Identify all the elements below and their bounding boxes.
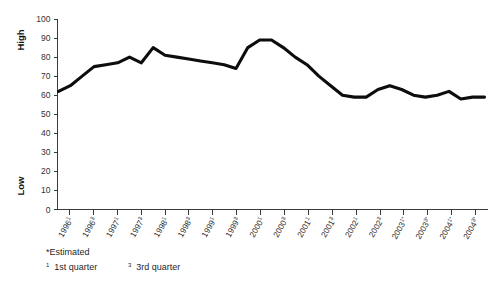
x-tick-label: 19983 — [175, 216, 194, 239]
y-tick-label: 80 — [41, 52, 51, 62]
y-tick-label: 20 — [41, 166, 51, 176]
data-line-series — [59, 40, 485, 99]
y-tick-label: 60 — [41, 90, 51, 100]
x-axis-group: 1996119963199711997319981199831999119993… — [56, 210, 488, 241]
x-tick-label: 19973 — [128, 216, 147, 239]
y-tick-label: 70 — [41, 71, 51, 81]
x-tick-label: 20031* — [389, 215, 410, 241]
x-tick-label: 19981 — [151, 216, 170, 239]
y-tick-label: 40 — [41, 128, 51, 138]
chart-container: 1009080706050403020100 High Low 19961199… — [0, 0, 504, 286]
x-tick-label: 19963 — [80, 216, 99, 239]
x-tick-label: 19971 — [104, 216, 123, 239]
x-tick-label: 20033* — [413, 215, 434, 241]
data-series-group — [59, 40, 485, 99]
footnote-estimated: *Estimated — [46, 247, 90, 257]
y-tick-label: 90 — [41, 33, 51, 43]
x-tick-marks — [69, 210, 475, 215]
y-tick-label: 0 — [46, 205, 51, 215]
y-axis-group: 1009080706050403020100 High Low — [15, 14, 58, 215]
y-tick-labels: 1009080706050403020100 — [36, 14, 50, 215]
x-tick-label: 20021 — [343, 216, 362, 239]
x-tick-label: 20041* — [437, 215, 458, 241]
x-tick-labels: 1996119963199711997319981199831999119993… — [56, 215, 482, 241]
x-tick-label: 20043* — [461, 215, 482, 241]
x-tick-label: 20003 — [271, 216, 290, 239]
y-tick-label: 30 — [41, 147, 51, 157]
y-tick-label: 50 — [41, 109, 51, 119]
footnote-q3: 33rd quarter — [128, 262, 180, 272]
x-tick-label: 19961 — [56, 216, 75, 239]
x-tick-label: 20013 — [319, 216, 338, 239]
footnote-q1: 11st quarter — [46, 262, 97, 272]
footnotes-group: *Estimated 11st quarter 33rd quarter — [46, 247, 180, 272]
line-chart: 1009080706050403020100 High Low 19961199… — [0, 0, 504, 286]
x-tick-label: 20023 — [366, 216, 385, 239]
y-tick-label: 100 — [36, 14, 50, 24]
y-tick-marks — [54, 19, 58, 210]
x-tick-label: 20001 — [247, 216, 266, 239]
x-tick-label: 19991 — [199, 216, 218, 239]
y-tick-label: 10 — [41, 185, 51, 195]
x-tick-label: 20011 — [295, 216, 314, 239]
x-tick-label: 19993 — [223, 216, 242, 239]
axis-label-low: Low — [15, 176, 26, 196]
axis-label-high: High — [15, 29, 26, 50]
